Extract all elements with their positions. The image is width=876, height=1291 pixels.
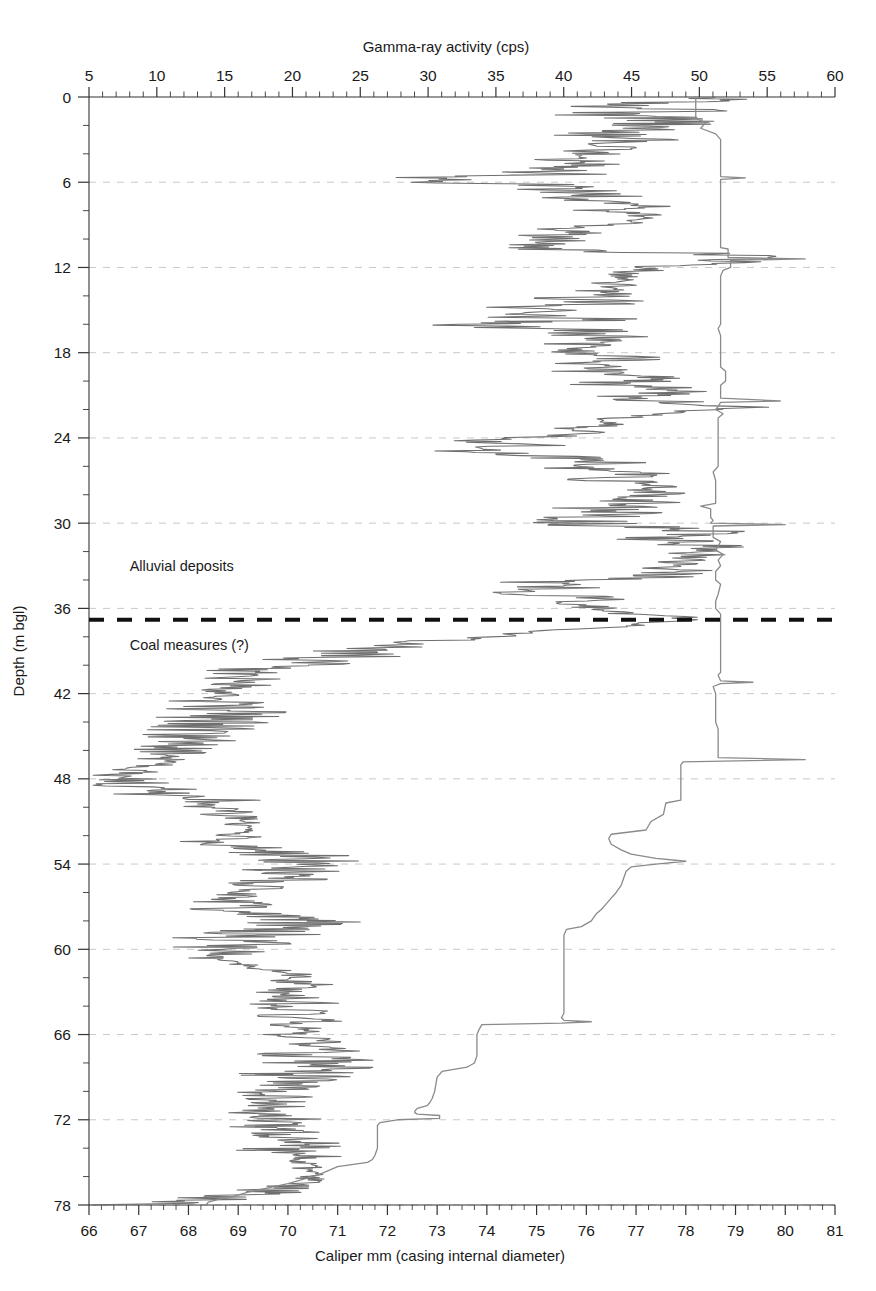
depth-axis-tick-label: 0 (62, 89, 71, 106)
bottom-axis-tick-label: 72 (379, 1222, 396, 1239)
borehole-log-figure: 51015202530354045505560Gamma-ray activit… (0, 0, 876, 1291)
top-axis-tick-label: 45 (623, 67, 640, 84)
bottom-axis-tick-label: 71 (329, 1222, 346, 1239)
top-axis-tick-label: 35 (487, 67, 504, 84)
bottom-axis-tick-label: 69 (230, 1222, 247, 1239)
gridlines-layer (89, 182, 835, 1205)
top-axis-tick-label: 25 (352, 67, 369, 84)
depth-axis-tick-label: 24 (54, 429, 72, 446)
depth-axis-tick-label: 42 (54, 685, 71, 702)
bottom-axis-tick-label: 75 (528, 1222, 545, 1239)
depth-axis-tick-label: 6 (62, 174, 71, 191)
borehole-log-svg: 51015202530354045505560Gamma-ray activit… (0, 0, 876, 1291)
top-axis-tick-label: 10 (148, 67, 166, 84)
bottom-axis-tick-label: 66 (80, 1222, 97, 1239)
depth-axis-title: Depth (m bgl) (10, 606, 27, 697)
bottom-axis-tick-label: 79 (727, 1222, 744, 1239)
text-labels-layer: 51015202530354045505560Gamma-ray activit… (10, 38, 844, 1264)
bottom-axis-tick-label: 67 (130, 1222, 147, 1239)
bottom-axis-tick-label: 70 (279, 1222, 297, 1239)
bottom-axis-tick-label: 77 (627, 1222, 644, 1239)
depth-axis-tick-label: 60 (54, 941, 72, 958)
top-axis-tick-label: 40 (555, 67, 573, 84)
bottom-axis-tick-label: 76 (578, 1222, 595, 1239)
top-axis-tick-label: 30 (419, 67, 437, 84)
top-axis-tick-label: 50 (691, 67, 709, 84)
top-axis-tick-label: 20 (284, 67, 302, 84)
top-axis-tick-label: 55 (759, 67, 776, 84)
annotation-coal-measures: Coal measures (?) (130, 637, 249, 653)
bottom-axis-tick-label: 73 (429, 1222, 446, 1239)
depth-axis-tick-label: 12 (54, 259, 71, 276)
bottom-axis-tick-label: 81 (826, 1222, 843, 1239)
bottom-axis-tick-label: 68 (180, 1222, 197, 1239)
bottom-axis-tick-label: 74 (478, 1222, 496, 1239)
bottom-axis-tick-label: 78 (677, 1222, 694, 1239)
depth-axis-tick-label: 72 (54, 1111, 71, 1128)
top-axis-title: Gamma-ray activity (cps) (363, 38, 530, 55)
depth-axis-tick-label: 54 (54, 856, 72, 873)
depth-axis-tick-label: 78 (54, 1197, 71, 1214)
depth-axis-tick-label: 48 (54, 770, 71, 787)
top-axis-tick-label: 60 (826, 67, 844, 84)
bottom-axis-tick-label: 80 (777, 1222, 795, 1239)
depth-axis-tick-label: 18 (54, 344, 71, 361)
top-axis-tick-label: 15 (216, 67, 233, 84)
depth-axis-tick-label: 30 (54, 515, 72, 532)
top-axis-tick-label: 5 (85, 67, 94, 84)
annotation-alluvial-deposits: Alluvial deposits (130, 558, 234, 574)
bottom-axis-title: Caliper mm (casing internal diameter) (315, 1247, 565, 1264)
depth-axis-tick-label: 36 (54, 600, 71, 617)
depth-axis-tick-label: 66 (54, 1026, 71, 1043)
